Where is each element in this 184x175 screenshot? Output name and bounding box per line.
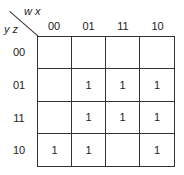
kmap-cell [38,37,72,69]
row-header: 11 [6,112,32,124]
kmap-grid: 111111111 [37,36,175,167]
kmap-cell: 1 [106,102,140,134]
kmap-cell: 1 [72,102,106,134]
kmap-cell [106,37,140,69]
column-header: 11 [106,20,140,32]
kmap-cell: 1 [140,134,174,166]
column-header: 01 [72,20,106,32]
kmap-cell [106,134,140,166]
kmap-cell [72,37,106,69]
kmap-cell: 1 [72,69,106,101]
column-header: 10 [141,20,175,32]
column-variables-label: w x [24,5,41,17]
row-variables-label: y z [4,23,18,35]
row-header: 10 [6,144,32,156]
kmap-cell [38,69,72,101]
kmap-cell: 1 [106,69,140,101]
kmap-cell: 1 [38,134,72,166]
kmap-cell: 1 [140,102,174,134]
row-header: 00 [6,46,32,58]
kmap-cell [38,102,72,134]
kmap-cell: 1 [72,134,106,166]
kmap-cell [140,37,174,69]
row-header: 01 [6,79,32,91]
kmap-cell: 1 [140,69,174,101]
column-header: 00 [37,20,71,32]
